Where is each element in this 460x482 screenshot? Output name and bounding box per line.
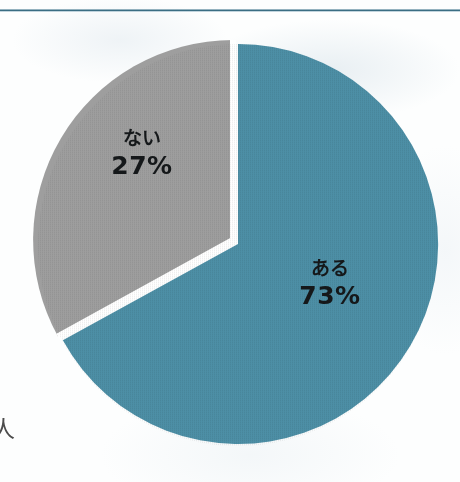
pie-label-aru: ある 73%	[263, 258, 397, 310]
pie-label-nai-percent: 27%	[82, 152, 202, 181]
pie-chart: ない 27% ある 73%	[0, 0, 460, 482]
pie-chart-svg	[0, 0, 460, 482]
pie-label-aru-name: ある	[263, 258, 397, 280]
margin-cropped-glyph: 人	[0, 418, 15, 441]
pie-label-aru-percent: 73%	[263, 282, 397, 311]
pie-label-nai: ない 27%	[82, 128, 202, 180]
pie-label-nai-name: ない	[82, 128, 202, 150]
